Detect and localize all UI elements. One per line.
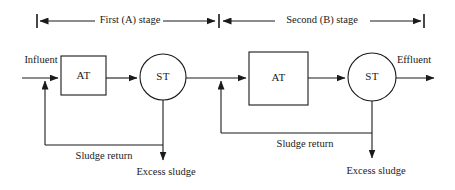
stage-a-group: Influent AT ST Sludge return Excess slud… — [22, 54, 246, 177]
process-flow-diagram: First (A) stage Second (B) stage Influen… — [0, 0, 455, 190]
sludge-return-b-label: Sludge return — [277, 138, 335, 149]
stage-bracket-group: First (A) stage Second (B) stage — [37, 14, 424, 28]
settling-tank-1-label: ST — [156, 70, 170, 82]
stage-label-second: Second (B) stage — [286, 14, 358, 26]
influent-label: Influent — [24, 54, 57, 65]
aeration-tank-2-label: AT — [271, 71, 285, 83]
stage-b-group: AT ST Effluent Sludge return Excess slud… — [221, 52, 434, 176]
excess-sludge-a-label: Excess sludge — [136, 166, 196, 177]
diagram-canvas: First (A) stage Second (B) stage Influen… — [0, 0, 455, 190]
effluent-label: Effluent — [397, 54, 431, 65]
stage-label-first: First (A) stage — [100, 14, 161, 26]
sludge-return-a-label: Sludge return — [76, 150, 134, 161]
settling-tank-2-label: ST — [365, 70, 379, 82]
aeration-tank-1-label: AT — [76, 69, 90, 81]
excess-sludge-b-label: Excess sludge — [346, 165, 406, 176]
